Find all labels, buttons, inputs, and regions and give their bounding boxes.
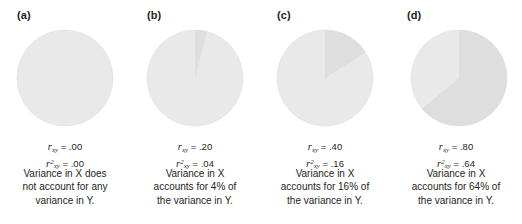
r-subscript: xy [443,146,449,154]
pie-svg-b [146,29,244,127]
panel-d: (d) rxy = .80 r2xy = .64 Variance in X a… [390,0,522,224]
caption-b: Variance in X accounts for 4% of the var… [130,167,260,207]
r-value-c: .40 [329,141,342,152]
caption-a: Variance in X does not account for any v… [0,167,130,207]
equals-sign: = [61,141,67,152]
r-subscript: xy [52,146,58,154]
panel-a: (a) rxy = .00 r2xy = .00 Variance in X d… [0,0,130,224]
r-value-line-b: rxy = .20 [130,141,260,156]
shared-variance-figure: (a) rxy = .00 r2xy = .00 Variance in X d… [0,0,522,224]
panel-label-a: (a) [17,9,31,21]
caption-line: the variance in Y. [130,194,260,207]
caption-d: Variance in X accounts for 64% of the va… [390,167,522,207]
caption-line: the variance in Y. [390,194,522,207]
pie-base-circle [17,30,113,126]
r-subscript: xy [182,146,188,154]
caption-line: Variance in X does [0,167,130,180]
panel-label-c: (c) [277,9,291,21]
caption-c: Variance in X accounts for 16% of the va… [260,167,390,207]
caption-line: the variance in Y. [260,194,390,207]
caption-line: accounts for 4% of [130,180,260,193]
r-value-b: .20 [199,141,212,152]
caption-line: accounts for 64% of [390,180,522,193]
panel-c: (c) rxy = .40 r2xy = .16 Variance in X a… [260,0,390,224]
caption-line: variance in Y. [0,194,130,207]
equals-sign: = [191,141,197,152]
r-value-line-a: rxy = .00 [0,141,130,156]
panel-label-d: (d) [407,9,421,21]
pie-chart-c [276,29,374,127]
panel-b: (b) rxy = .20 r2xy = .04 Variance in X a… [130,0,260,224]
caption-line: Variance in X [260,167,390,180]
caption-line: Variance in X [390,167,522,180]
r-value-d: .80 [460,141,473,152]
pie-chart-a [16,29,114,127]
caption-line: accounts for 16% of [260,180,390,193]
pie-chart-b [146,29,244,127]
panel-label-b: (b) [147,9,161,21]
pie-svg-c [276,29,374,127]
equals-sign: = [452,141,458,152]
r-value-line-d: rxy = .80 [390,141,522,156]
equals-sign: = [321,141,327,152]
r-value-line-c: rxy = .40 [260,141,390,156]
caption-line: not account for any [0,180,130,193]
pie-svg-a [16,29,114,127]
r-subscript: xy [312,146,318,154]
r-value-a: .00 [69,141,82,152]
pie-svg-d [410,29,508,127]
pie-chart-d [410,29,508,127]
caption-line: Variance in X [130,167,260,180]
